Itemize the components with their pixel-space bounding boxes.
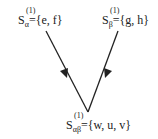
- edge-beta-to-alphabeta: [88, 31, 118, 112]
- node-alphabeta: S(1)αβ={w, u, v}: [66, 119, 131, 131]
- node-set: ={g, h}: [113, 13, 149, 27]
- node-symbol: S: [18, 13, 25, 27]
- node-set: ={e, f}: [29, 13, 63, 27]
- node-alpha: S(1)α={e, f}: [18, 14, 63, 26]
- node-symbol: S: [66, 118, 73, 132]
- arrowhead-icon: [104, 68, 112, 78]
- node-superscript: (1): [26, 7, 35, 15]
- node-symbol: S: [102, 13, 109, 27]
- node-superscript: (1): [110, 7, 119, 15]
- node-subscript: β: [109, 20, 113, 29]
- node-set: ={w, u, v}: [81, 118, 131, 132]
- node-subscript: α: [25, 20, 29, 29]
- node-beta: S(1)β={g, h}: [102, 14, 149, 26]
- arrowhead-icon: [60, 68, 68, 78]
- node-superscript: (1): [74, 112, 83, 120]
- node-subscript: αβ: [73, 125, 81, 134]
